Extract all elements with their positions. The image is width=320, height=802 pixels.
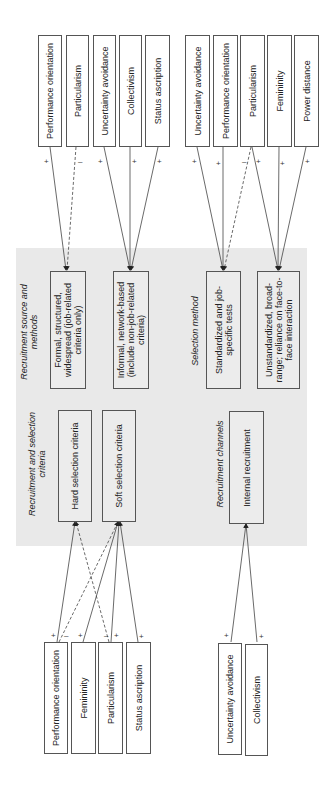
factor-label: Femininity	[275, 70, 285, 111]
factor-uncertainty-avoidance: Uncertainty avoidance	[185, 35, 210, 147]
factor-label: Status ascription	[153, 58, 163, 125]
box-label: Standardized and job-specific tests	[214, 280, 234, 380]
factor-label: Particularism	[106, 672, 116, 724]
negative-sign: –	[104, 632, 108, 640]
box-standardized-tests: Standardized and job-specific tests	[206, 271, 241, 389]
box-label: Unstandardized, broad-range; reliance on…	[264, 274, 294, 386]
factor-label: Particularism	[73, 65, 83, 117]
factor-collectivism: Collectivism	[245, 644, 268, 756]
factor-label: Power distance	[302, 60, 312, 122]
factor-label: Performance orientation	[221, 43, 231, 139]
factor-status-ascription: Status ascription	[145, 35, 170, 147]
positive-sign: +	[78, 632, 83, 640]
factor-label: Performance orientation	[45, 43, 55, 139]
box-hard-criteria: Hard selection criteria	[58, 410, 92, 522]
positive-sign: +	[259, 633, 264, 641]
box-label: Internal recruitment	[242, 429, 252, 507]
box-soft-criteria: Soft selection criteria	[102, 410, 136, 522]
box-formal-recruitment: Formal, structured, widespread (job-rela…	[50, 271, 86, 389]
factor-uncertainty-avoidance: Uncertainty avoidance	[93, 35, 116, 147]
box-unstandardized-selection: Unstandardized, broad-range; reliance on…	[257, 271, 300, 389]
negative-sign: –	[64, 632, 68, 640]
factor-label: Collectivism	[126, 67, 136, 115]
factor-label: Particularism	[248, 65, 258, 117]
factor-performance-orientation: Performance orientation	[44, 642, 68, 754]
factor-femininity: Femininity	[71, 642, 96, 754]
factor-label: Performance orientation	[51, 650, 61, 746]
negative-sign: –	[242, 158, 246, 166]
section-title-criteria: Recruitment and selection criteria	[27, 403, 51, 525]
positive-sign: +	[98, 158, 103, 166]
factor-collectivism: Collectivism	[119, 35, 142, 147]
positive-sign: +	[280, 160, 285, 168]
positive-sign: +	[51, 632, 56, 640]
section-title-selection: Selection method	[190, 276, 202, 386]
positive-sign: +	[256, 158, 261, 166]
factor-status-ascription: Status ascription	[126, 642, 151, 754]
box-internal-recruitment: Internal recruitment	[229, 411, 264, 524]
positive-sign: +	[305, 158, 310, 166]
factor-particularism: Particularism	[98, 642, 123, 754]
section-title-source: Recruitment source and methods	[19, 271, 43, 393]
factor-label: Status ascription	[134, 665, 144, 732]
factor-performance-orientation: Performance orientation	[213, 35, 238, 147]
box-label: Formal, structured, widespread (job-rela…	[53, 275, 83, 385]
factor-power-distance: Power distance	[294, 35, 319, 147]
factor-label: Femininity	[79, 677, 89, 718]
factor-particularism: Particularism	[240, 35, 265, 147]
factor-performance-orientation: Performance orientation	[38, 35, 62, 147]
box-label: Informal, network-based (include non-job…	[116, 275, 146, 385]
factor-femininity: Femininity	[267, 35, 292, 147]
box-label: Soft selection criteria	[114, 424, 124, 508]
factor-label: Uncertainty avoidance	[193, 46, 203, 135]
negative-sign: –	[78, 158, 82, 166]
positive-sign: +	[216, 160, 221, 168]
positive-sign: +	[132, 158, 137, 166]
factor-uncertainty-avoidance: Uncertainty avoidance	[218, 643, 242, 755]
positive-sign: +	[139, 633, 144, 641]
box-label: Hard selection criteria	[70, 422, 80, 509]
positive-sign: +	[192, 158, 197, 166]
factor-label: Uncertainty avoidance	[100, 46, 110, 135]
box-informal-recruitment: Informal, network-based (include non-job…	[113, 271, 149, 389]
positive-sign: +	[44, 158, 49, 166]
section-title-channels: Recruitment channels	[215, 409, 227, 519]
factor-label: Uncertainty avoidance	[225, 654, 235, 743]
recruitment-diagram: Performance orientation Particularism Un…	[0, 0, 320, 802]
positive-sign: +	[157, 158, 162, 166]
factor-particularism: Particularism	[66, 35, 89, 147]
factor-label: Collectivism	[252, 676, 262, 724]
positive-sign: +	[224, 632, 229, 640]
positive-sign: +	[114, 632, 119, 640]
